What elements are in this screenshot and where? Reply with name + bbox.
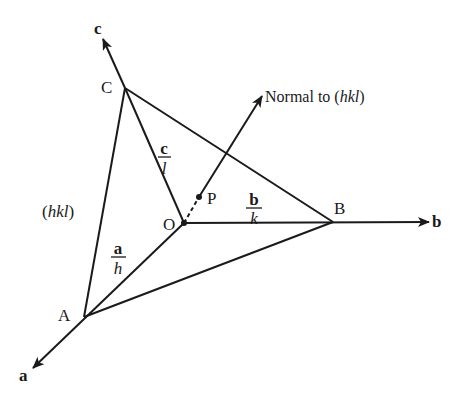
axis-a-arrow [33, 223, 184, 368]
plane-label-hkl: hkl [48, 202, 69, 221]
plane-label-close: ) [68, 202, 74, 221]
axis-label-a: a [19, 366, 28, 385]
label-o: O [163, 215, 175, 234]
label-p: P [207, 189, 216, 208]
fraction-b-numerator: b [249, 190, 258, 209]
normal-label-hkl: hkl [340, 88, 360, 105]
edge-ca [84, 88, 125, 317]
fraction-a-numerator: a [114, 239, 123, 258]
normal-dashed-segment [184, 197, 199, 223]
fraction-a-denominator: h [114, 259, 123, 278]
label-a: A [58, 306, 71, 325]
origin-point [181, 220, 187, 226]
fraction-c-numerator: c [160, 139, 168, 158]
axis-b-arrow [184, 222, 429, 223]
label-b: B [334, 199, 345, 218]
axis-label-b: b [432, 212, 441, 231]
fraction-c-over-l: c l [158, 139, 171, 178]
axis-label-c: c [94, 19, 102, 38]
edge-cb [125, 88, 333, 222]
normal-label: Normal to (hkl) [265, 88, 365, 106]
plane-label: (hkl) [42, 202, 74, 221]
axis-c-segment [125, 88, 184, 223]
normal-label-prefix: Normal to ( [265, 88, 340, 106]
normal-arrow [199, 96, 262, 197]
miller-plane-diagram: O P A B C a b c c l b k a h (hkl) Normal… [0, 0, 461, 398]
fraction-c-denominator: l [162, 159, 167, 178]
point-p [196, 194, 202, 200]
normal-label-suffix: ) [359, 88, 364, 106]
label-c: C [101, 78, 112, 97]
fraction-b-denominator: k [250, 209, 258, 228]
fraction-a-over-h: a h [111, 239, 126, 278]
axes [33, 39, 429, 368]
